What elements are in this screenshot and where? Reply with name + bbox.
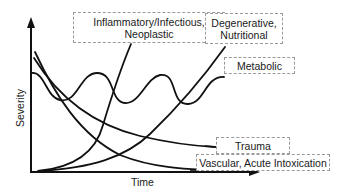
label-metabolic: Metabolic [237,60,282,72]
label-inflammatory-line2: Neoplastic [124,28,173,40]
label-vascular-box: Vascular, Acute Intoxication [196,154,330,171]
y-axis-arrowhead-icon [27,17,35,28]
x-axis-label: Time [131,176,154,188]
label-inflammatory-box: Inflammatory/Infectious, Neoplastic [73,12,225,43]
x-axis-label-text: Time [131,176,154,188]
leader-trauma [205,146,216,147]
label-metabolic-box: Metabolic [224,57,295,74]
label-inflammatory-line1: Inflammatory/Infectious, [93,16,204,28]
curve-inflammatory [38,44,131,171]
y-axis-label: Severity [14,86,26,130]
label-trauma: Trauma [235,140,271,152]
label-degenerative-box: Degenerative, Nutritional [205,13,283,44]
y-axis-label-text: Severity [14,89,26,127]
label-vascular: Vascular, Acute Intoxication [199,157,327,169]
label-trauma-box: Trauma [216,137,290,154]
curve-metabolic [32,73,224,104]
label-degenerative-line1: Degenerative, [211,17,276,29]
label-degenerative-line2: Nutritional [220,29,267,41]
